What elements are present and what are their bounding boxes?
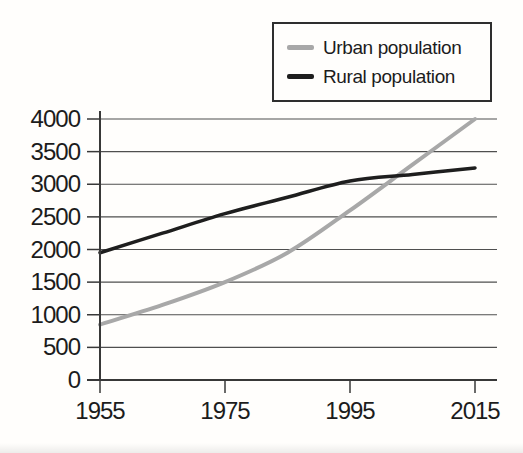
legend: Urban population Rural population bbox=[272, 22, 492, 102]
legend-item-urban: Urban population bbox=[287, 37, 490, 59]
legend-item-rural: Rural population bbox=[287, 66, 490, 88]
legend-label-urban: Urban population bbox=[323, 37, 461, 59]
y-axis-tick-label: 1000 bbox=[18, 302, 80, 328]
data-series bbox=[100, 119, 475, 325]
y-axis-tick-label: 0 bbox=[18, 367, 80, 393]
y-axis-tick-label: 2000 bbox=[18, 237, 80, 263]
y-axis-tick-label: 1500 bbox=[18, 269, 80, 295]
rural-population-line bbox=[100, 168, 475, 253]
y-axis-tick-label: 3000 bbox=[18, 171, 80, 197]
rural-line-swatch bbox=[287, 74, 314, 79]
legend-label-rural: Rural population bbox=[323, 66, 455, 88]
x-axis-tick-label: 1975 bbox=[183, 398, 267, 424]
y-axis-tick-label: 500 bbox=[18, 334, 80, 360]
x-axis-tick-label: 2015 bbox=[433, 398, 517, 424]
urban-line-swatch bbox=[287, 45, 314, 50]
y-axis-tick-label: 3500 bbox=[18, 139, 80, 165]
population-line-chart: 0500100015002000250030003500400019551975… bbox=[0, 0, 523, 453]
urban-population-line bbox=[100, 119, 475, 325]
x-axis-tick-label: 1995 bbox=[308, 398, 392, 424]
x-axis-tick-label: 1955 bbox=[58, 398, 142, 424]
y-axis-tick-label: 2500 bbox=[18, 204, 80, 230]
y-axis-tick-label: 4000 bbox=[18, 106, 80, 132]
